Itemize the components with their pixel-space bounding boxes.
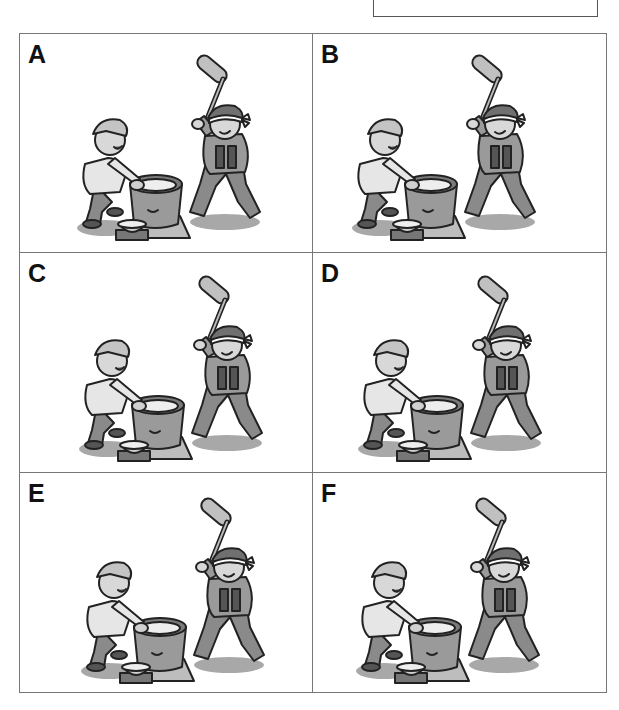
mochi-pounding-illustration <box>313 34 606 253</box>
mochi-pounding-illustration <box>20 473 313 692</box>
mochi-pounding-illustration <box>313 253 606 473</box>
panel-d[interactable]: D <box>313 253 606 473</box>
panel-a[interactable]: A <box>20 34 313 253</box>
panel-f[interactable]: F <box>313 473 606 692</box>
mochi-pounding-illustration <box>20 34 313 253</box>
panel-b[interactable]: B <box>313 34 606 253</box>
mochi-pounding-illustration <box>20 253 313 473</box>
panel-c[interactable]: C <box>20 253 313 473</box>
puzzle-grid: A B C D E F <box>19 33 607 693</box>
panel-e[interactable]: E <box>20 473 313 692</box>
mochi-pounding-illustration <box>313 473 606 692</box>
answer-box[interactable] <box>373 0 598 17</box>
